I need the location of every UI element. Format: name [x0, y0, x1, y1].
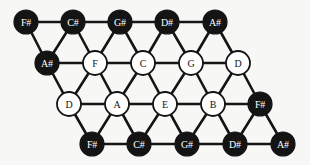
tonnetz-node-label: G [187, 58, 194, 69]
tonnetz-node[interactable]: G# [108, 10, 132, 34]
tonnetz-node[interactable]: F [83, 51, 107, 75]
tonnetz-node-label: A# [41, 58, 53, 69]
tonnetz-node[interactable]: C# [127, 132, 151, 156]
tonnetz-node[interactable]: E [153, 92, 177, 116]
tonnetz-diagram: F#C#G#D#A#A#FCGDDAEBF#F#C#G#D#A# [0, 0, 310, 165]
tonnetz-node-label: D# [229, 139, 241, 150]
tonnetz-node-label: A# [209, 17, 221, 28]
tonnetz-node-label: A [113, 99, 121, 110]
tonnetz-node-label: B [210, 99, 217, 110]
tonnetz-node[interactable]: D# [223, 132, 247, 156]
tonnetz-node-label: G# [114, 17, 126, 28]
tonnetz-node-label: C [140, 58, 147, 69]
tonnetz-node-label: C# [67, 17, 78, 28]
tonnetz-node-label: F# [21, 17, 31, 28]
tonnetz-node-label: A# [277, 139, 289, 150]
tonnetz-node[interactable]: G# [175, 132, 199, 156]
tonnetz-node[interactable]: A# [35, 51, 59, 75]
tonnetz-node[interactable]: F# [14, 10, 38, 34]
tonnetz-node-label: D# [161, 17, 173, 28]
tonnetz-node[interactable]: A# [271, 132, 295, 156]
tonnetz-node[interactable]: B [201, 92, 225, 116]
tonnetz-svg-canvas: F#C#G#D#A#A#FCGDDAEBF#F#C#G#D#A# [0, 0, 310, 165]
tonnetz-node[interactable]: D# [155, 10, 179, 34]
tonnetz-node-label: F# [87, 139, 97, 150]
tonnetz-node[interactable]: F# [248, 92, 272, 116]
tonnetz-node-label: D [65, 99, 72, 110]
tonnetz-node[interactable]: A# [203, 10, 227, 34]
edge-layer [26, 22, 283, 144]
tonnetz-node-label: C# [133, 139, 144, 150]
tonnetz-node-label: G# [181, 139, 193, 150]
tonnetz-node[interactable]: G [179, 51, 203, 75]
tonnetz-node[interactable]: C# [61, 10, 85, 34]
tonnetz-node[interactable]: D [226, 51, 250, 75]
tonnetz-node-label: F [92, 58, 98, 69]
tonnetz-node-label: F# [255, 99, 265, 110]
tonnetz-node-label: D [234, 58, 241, 69]
tonnetz-node[interactable]: A [105, 92, 129, 116]
tonnetz-node[interactable]: F# [80, 132, 104, 156]
tonnetz-node[interactable]: D [57, 92, 81, 116]
tonnetz-node-label: E [162, 99, 168, 110]
tonnetz-node[interactable]: C [131, 51, 155, 75]
